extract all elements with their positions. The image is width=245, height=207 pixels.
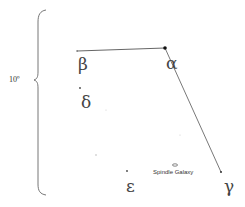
faint-star bbox=[179, 134, 180, 135]
faint-star bbox=[105, 109, 106, 110]
star-gamma bbox=[220, 171, 222, 173]
label-beta: β bbox=[78, 56, 88, 73]
faint-star bbox=[95, 154, 96, 155]
line-beta-alpha bbox=[77, 48, 165, 51]
star-alpha bbox=[163, 46, 167, 50]
scale-brace bbox=[34, 10, 46, 195]
scale-label: 10º bbox=[9, 76, 19, 84]
label-gamma: γ bbox=[224, 178, 234, 195]
label-delta: δ bbox=[81, 94, 91, 111]
label-alpha: α bbox=[166, 55, 177, 72]
star-delta bbox=[79, 87, 81, 89]
star-epsilon bbox=[126, 170, 128, 172]
spindle-galaxy-label: Spindle Galaxy bbox=[153, 169, 193, 175]
constellation-diagram bbox=[0, 0, 245, 207]
star-beta bbox=[76, 50, 77, 51]
label-epsilon: ε bbox=[126, 178, 135, 195]
spindle-galaxy-icon bbox=[172, 164, 177, 166]
